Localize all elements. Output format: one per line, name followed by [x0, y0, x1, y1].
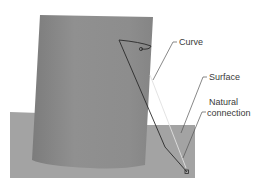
surface-label: Surface	[209, 72, 240, 83]
curve-label: Curve	[179, 37, 203, 48]
curve-leader-line	[153, 42, 177, 80]
natural-connection-label-line2: connection	[207, 108, 251, 119]
natural-connection-label-line1: Natural	[209, 97, 238, 108]
cylinder	[32, 15, 153, 169]
surface-leader-line	[181, 77, 207, 133]
cad-diagram	[0, 0, 260, 186]
